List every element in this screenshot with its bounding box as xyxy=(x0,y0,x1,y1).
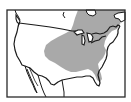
range-map xyxy=(0,0,131,102)
lake-michigan xyxy=(82,35,85,45)
